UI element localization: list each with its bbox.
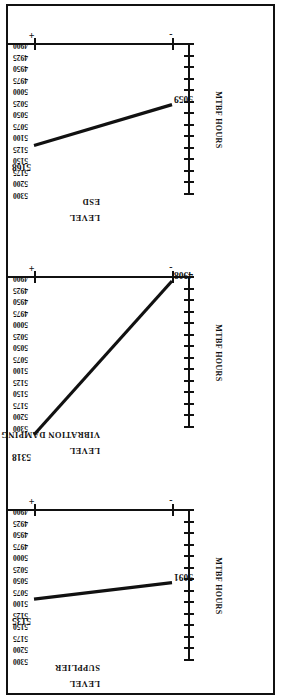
mtbf-tick-label: 4975 [1,75,41,84]
mtbf-tick-label: 4925 [1,518,41,527]
mtbf-tick-label: 4975 [1,541,41,550]
mtbf-tick-label: 5000 [1,553,41,562]
mtbf-tick-label: 5000 [1,87,41,96]
point-value-label-plus: 5135 [12,616,31,626]
point-value-label-minus: 5091 [174,572,193,582]
mtbf-tick-label: 5050 [1,576,41,585]
mtbf-tick-label: 5200 [1,412,41,421]
point-value-label-minus: 5059 [174,94,193,104]
mtbf-tick-label: 4950 [1,530,41,539]
mtbf-tick-label: 5175 [1,633,41,642]
mtbf-tick-label: 5100 [1,366,41,375]
effect-line-esd [34,105,172,146]
level-tick-label-minus: - [169,30,172,41]
mtbf-tick-label: 5050 [1,343,41,352]
level-tick-label-minus: - [169,263,172,274]
main-effect-panel-esd: MTBF HOURS LEVEL ESD 5300520051755150512… [0,0,281,233]
effect-line-vibration [34,281,172,435]
mtbf-tick-label: 5100 [1,133,41,142]
mtbf-tick-label: 4925 [1,52,41,61]
mtbf-tick-label: 4900 [1,274,41,283]
point-value-label-minus: 4908 [174,270,193,280]
mtbf-tick-label: 5025 [1,331,41,340]
level-tick-label-plus: + [29,30,35,41]
mtbf-tick-label: 4900 [1,507,41,516]
mtbf-tick-label: 5025 [1,98,41,107]
mtbf-tick-label: 5100 [1,599,41,608]
mtbf-tick-label: 4975 [1,308,41,317]
mtbf-tick-label: 5200 [1,645,41,654]
plot-area-esd: MTBF HOURS LEVEL ESD 5300520051755150512… [0,0,281,233]
effect-line-svg-esd [0,0,281,233]
mtbf-tick-label: 5175 [1,400,41,409]
main-effect-panel-vibration-damping: MTBF HOURS LEVEL VIBRATION DAMPING 53005… [0,233,281,466]
mtbf-tick-label: 5075 [1,121,41,130]
mtbf-tick-label: 5050 [1,110,41,119]
effect-line-svg-vibration [0,233,281,466]
effect-line-supplier [34,583,172,600]
mtbf-tick-label: 5025 [1,564,41,573]
mtbf-tick-label: 4950 [1,297,41,306]
plot-area-supplier: MTBF HOURS LEVEL SUPPLIER 53005200517551… [0,466,281,699]
mtbf-tick-label: 5300 [1,191,41,200]
mtbf-tick-label: 5075 [1,354,41,363]
mtbf-tick-label: 5125 [1,377,41,386]
mtbf-tick-label: 4925 [1,285,41,294]
mtbf-tick-label: 5200 [1,179,41,188]
mtbf-tick-label: 5300 [1,424,41,433]
level-tick-label-plus: + [29,496,35,507]
mtbf-tick-label: 5000 [1,320,41,329]
mtbf-tick-label: 5150 [1,389,41,398]
effect-line-svg-supplier [0,466,281,699]
point-value-label-plus: 5168 [12,163,31,173]
main-effect-panel-supplier: MTBF HOURS LEVEL SUPPLIER 53005200517551… [0,466,281,699]
mtbf-tick-label: 5125 [1,144,41,153]
mtbf-tick-label: 5075 [1,587,41,596]
level-tick-label-plus: + [29,263,35,274]
mtbf-tick-label: 5300 [1,657,41,666]
mtbf-tick-label: 4950 [1,64,41,73]
mtbf-tick-label: 4900 [1,41,41,50]
plot-area-vibration: MTBF HOURS LEVEL VIBRATION DAMPING 53005… [0,233,281,466]
level-tick-label-minus: - [169,496,172,507]
point-value-label-plus: 5318 [12,452,31,462]
